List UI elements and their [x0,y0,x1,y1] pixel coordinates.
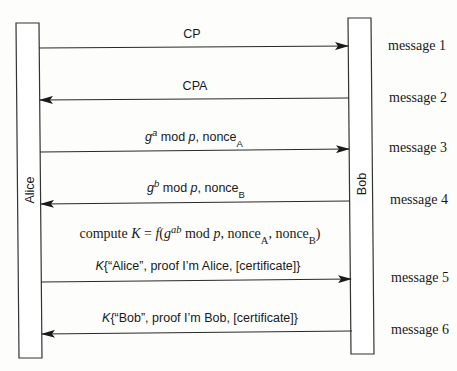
alice-label: Alice [23,176,37,203]
bob-label: Bob [355,173,369,195]
message-2-text: CPA [183,79,208,93]
message-4-text: gb mod p, nonceB [147,178,245,200]
message-6-label: message 6 [391,322,449,337]
message-1-text: CP [183,27,200,41]
message-3-arrow: ga mod p, nonceA [40,127,349,153]
compute-key-text: compute K = f(gab mod p, nonceA, nonceB) [79,224,320,246]
message-labels: message 1 message 2 message 3 message 4 … [388,38,449,337]
message-4-label: message 4 [390,192,448,207]
message-5-text: K{“Alice”, proof I’m Alice, [certificate… [96,259,301,273]
message-5-label: message 5 [391,270,449,285]
message-1-arrow: CP [39,27,348,48]
bob-lifeline: Bob [348,18,374,354]
sequence-diagram: Alice Bob CP CPA ga mod p, nonceA gb mod… [0,0,457,371]
alice-lifeline: Alice [16,23,42,358]
message-6-arrow: K{“Bob”, proof I’m Bob, [certificate]} [42,311,352,334]
message-4-arrow: gb mod p, nonceB [41,178,350,205]
message-5-arrow: K{“Alice”, proof I’m Alice, [certificate… [41,259,351,282]
message-1-label: message 1 [388,38,446,53]
message-2-arrow: CPA [40,79,349,100]
message-3-text: ga mod p, nonceA [145,127,243,149]
message-2-label: message 2 [389,90,447,105]
message-6-text: K{“Bob”, proof I’m Bob, [certificate]} [102,311,298,325]
diagram-canvas: Alice Bob CP CPA ga mod p, nonceA gb mod… [0,0,457,371]
message-3-label: message 3 [389,140,447,155]
